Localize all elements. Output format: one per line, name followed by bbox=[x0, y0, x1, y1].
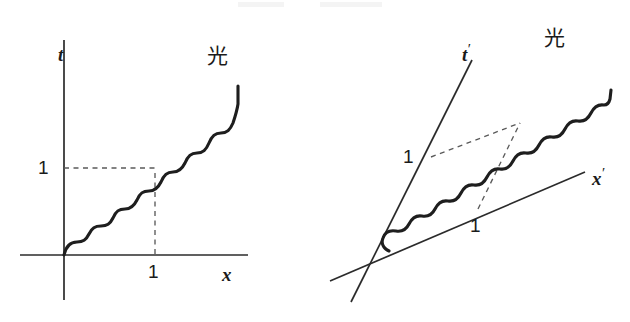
x-prime-axis-tick-label-1: 1 bbox=[470, 216, 481, 235]
panel-rest-frame bbox=[20, 40, 248, 300]
t-axis-label: t bbox=[58, 42, 64, 64]
x-axis-label: x bbox=[222, 262, 232, 284]
light-ray-label-rest-frame: 光 bbox=[207, 46, 228, 67]
t-prime-axis-tick-label-1: 1 bbox=[403, 147, 414, 166]
x-prime-axis-label: x′ bbox=[592, 166, 605, 188]
light-ray-wave bbox=[64, 86, 238, 255]
t-prime-axis-line bbox=[351, 60, 472, 302]
panel-moving-frame bbox=[330, 60, 611, 302]
guide-from-x-prime-1 bbox=[478, 123, 520, 209]
t-prime-axis-label: t′ bbox=[462, 42, 471, 64]
t-axis-tick-label-1: 1 bbox=[38, 158, 49, 177]
figure-root: t x 1 1 光 t′ x′ 1 1 光 bbox=[0, 0, 630, 322]
light-ray-label-moving-frame: 光 bbox=[544, 28, 565, 49]
x-axis-tick-label-1: 1 bbox=[148, 262, 159, 281]
x-prime-axis-line bbox=[330, 172, 585, 281]
guide-from-t-prime-1 bbox=[431, 123, 520, 157]
diagram-canvas bbox=[0, 0, 630, 322]
